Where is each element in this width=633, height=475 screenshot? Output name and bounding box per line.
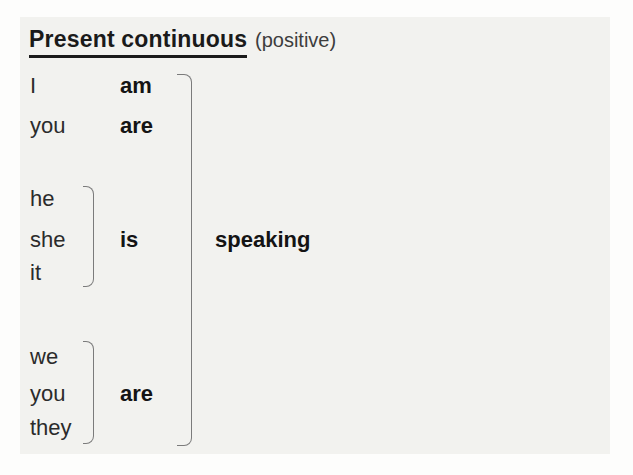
pronoun-she: she [30, 227, 65, 253]
pronoun-he: he [30, 186, 54, 212]
we-you-they-group-bracket [83, 341, 94, 444]
book-page: Present continuous (positive) I am you a… [0, 0, 633, 475]
verb-are-singular: are [120, 113, 153, 139]
verb-is: is [120, 227, 138, 253]
pronoun-you-plural: you [30, 381, 65, 407]
he-she-it-group-bracket [83, 186, 94, 287]
pronoun-you-singular: you [30, 113, 65, 139]
page-title: Present continuous [29, 26, 247, 58]
all-forms-bracket [177, 74, 192, 446]
verb-are-plural: are [120, 381, 153, 407]
pronoun-i: I [30, 73, 36, 99]
pronoun-it: it [30, 260, 41, 286]
verb-am: am [120, 73, 152, 99]
pronoun-they: they [30, 415, 72, 441]
participle-speaking: speaking [215, 227, 310, 253]
pronoun-we: we [30, 344, 58, 370]
page-title-qualifier: (positive) [255, 29, 336, 52]
grammar-panel [20, 17, 610, 454]
